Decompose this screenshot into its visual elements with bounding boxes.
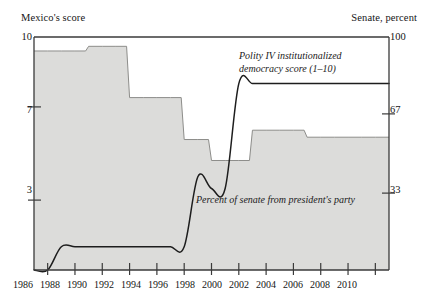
plot-area bbox=[0, 0, 427, 301]
x-tick-label-2010: 2010 bbox=[330, 279, 364, 290]
chart-figure: Mexico's score Senate, percent 10 7 3 10… bbox=[0, 0, 427, 301]
polity-annotation-line2: democracy score (1–10) bbox=[239, 63, 342, 76]
right-tick-label-67: 67 bbox=[390, 104, 416, 115]
left-tick-label-3: 3 bbox=[10, 184, 32, 195]
left-axis-caption: Mexico's score bbox=[21, 12, 85, 23]
polity-series-annotation: Polity IV institutionalized democracy sc… bbox=[239, 50, 342, 75]
right-axis-caption: Senate, percent bbox=[351, 12, 417, 23]
right-tick-label-33: 33 bbox=[390, 184, 416, 195]
left-tick-label-7: 7 bbox=[10, 104, 32, 115]
polity-annotation-line1: Polity IV institutionalized bbox=[239, 50, 342, 63]
senate-series-annotation: Percent of senate from president's party bbox=[196, 194, 355, 207]
right-tick-label-100: 100 bbox=[390, 31, 416, 42]
left-tick-label-10: 10 bbox=[10, 31, 32, 42]
